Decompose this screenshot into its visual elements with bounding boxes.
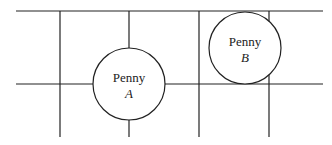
penny-a-letter: A (124, 86, 133, 101)
penny-b: Penny B (209, 12, 281, 84)
pennies: Penny A Penny B (93, 12, 281, 120)
penny-a-label: Penny (113, 70, 146, 85)
diagram-svg: Penny A Penny B (0, 0, 332, 145)
penny-b-label: Penny (229, 34, 262, 49)
penny-a: Penny A (93, 48, 165, 120)
penny-b-letter: B (241, 50, 249, 65)
penny-grid-diagram: Penny A Penny B (0, 0, 332, 145)
